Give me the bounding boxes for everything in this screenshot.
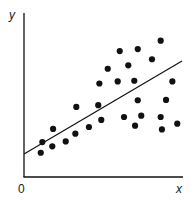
data-point: [72, 131, 78, 137]
data-point: [121, 114, 127, 120]
data-point: [86, 124, 92, 130]
data-point: [159, 126, 165, 132]
data-point: [96, 80, 102, 86]
y-axis-label: y: [9, 8, 15, 22]
scatter-chart: [0, 0, 195, 200]
data-point: [105, 66, 111, 72]
data-point: [98, 117, 104, 123]
data-point: [158, 38, 164, 44]
data-point: [132, 123, 138, 129]
data-point: [63, 138, 69, 144]
trend-line: [24, 61, 182, 154]
data-points: [38, 38, 181, 156]
data-point: [73, 104, 79, 110]
data-point: [131, 78, 137, 84]
data-point: [50, 126, 56, 132]
data-point: [125, 62, 131, 68]
data-point: [174, 121, 180, 127]
data-point: [169, 78, 175, 84]
data-point: [49, 143, 55, 149]
origin-label: 0: [18, 182, 25, 196]
data-point: [115, 78, 121, 84]
data-point: [149, 56, 155, 62]
x-axis-label: x: [176, 182, 182, 196]
data-point: [138, 113, 144, 119]
best-fit-line: [24, 61, 182, 154]
data-point: [39, 139, 45, 145]
data-point: [135, 97, 141, 103]
data-point: [38, 150, 44, 156]
data-point: [117, 48, 123, 54]
data-point: [135, 46, 141, 52]
data-point: [158, 114, 164, 120]
axes: [23, 13, 183, 177]
data-point: [163, 97, 169, 103]
data-point: [95, 102, 101, 108]
